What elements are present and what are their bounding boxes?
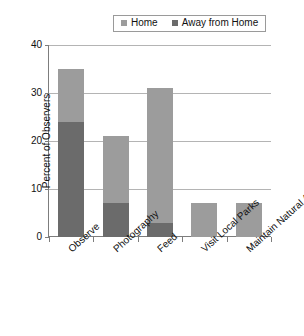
y-axis-tick-label: 20 [16, 135, 42, 146]
legend-swatch-away-from-home [172, 20, 178, 26]
legend-label-home: Home [131, 18, 158, 28]
y-axis-tick-label: 30 [16, 87, 42, 98]
bar-slot[interactable] [182, 45, 226, 237]
legend-item-away-from-home: Away from Home [172, 18, 259, 28]
x-axis-labels: ObservePhotographyFeedVisit Local ParksM… [48, 240, 304, 336]
bar-segment-home[interactable] [58, 69, 84, 122]
bar-slot[interactable] [138, 45, 182, 237]
bar-group [49, 45, 271, 237]
stacked-bar[interactable] [103, 136, 129, 237]
legend-item-home: Home [121, 18, 158, 28]
y-axis-tick-label: 40 [16, 39, 42, 50]
plot-area: Percent of Observers 010203040 [48, 45, 270, 237]
legend-swatch-home [121, 20, 127, 26]
stacked-bar-chart: Home Away from Home Percent of Observers… [0, 0, 304, 336]
stacked-bar[interactable] [58, 69, 84, 237]
y-axis-tick-label: 0 [16, 231, 42, 242]
bar-segment-home[interactable] [103, 136, 129, 203]
legend-label-away-from-home: Away from Home [182, 18, 259, 28]
y-axis-tick-label: 10 [16, 183, 42, 194]
bar-segment-away-from-home[interactable] [58, 122, 84, 237]
bar-segment-home[interactable] [147, 88, 173, 222]
bar-slot[interactable] [49, 45, 93, 237]
bar-slot[interactable] [93, 45, 137, 237]
chart-legend: Home Away from Home [113, 15, 266, 32]
